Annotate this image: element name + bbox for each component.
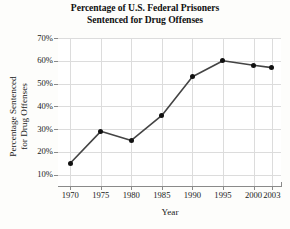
x-axis-line [58,186,282,187]
x-axis-title: Year [58,207,282,217]
chart-title-line-1: Percentage of U.S. Federal Prisoners [0,2,290,14]
x-tick-label: 2003 [263,190,280,200]
y-tick-mark [54,38,58,39]
y-tick-label: 70% [19,33,53,43]
y-tick-label: 10% [19,169,53,179]
data-point [129,138,134,143]
x-tick-label: 1970 [62,190,79,200]
x-tick-label: 1985 [153,190,170,200]
chart-title-line-2: Sentenced for Drug Offenses [0,14,290,26]
y-tick-mark [54,84,58,85]
y-tick-mark [54,61,58,62]
y-tick-mark [54,152,58,153]
x-tick-label: 1980 [123,190,140,200]
chart-figure: Percentage of U.S. Federal Prisoners Sen… [0,0,290,229]
y-axis-title-line-1: Percentage Sentenced [8,42,19,192]
data-point [68,161,73,166]
y-tick-label: 40% [19,101,53,111]
y-tick-label: 60% [19,55,53,65]
data-point [251,63,256,68]
data-line [58,38,281,186]
y-tick-label: 20% [19,146,53,156]
x-tick-label: 1995 [214,190,231,200]
x-tick-label: 1990 [184,190,201,200]
y-tick-label: 50% [19,78,53,88]
x-tick-label: 2000 [245,190,262,200]
x-tick-label: 1975 [92,190,109,200]
y-tick-mark [54,129,58,130]
chart-title: Percentage of U.S. Federal Prisoners Sen… [0,2,290,25]
y-tick-label: 30% [19,124,53,134]
y-tick-mark [54,106,58,107]
y-tick-mark [54,175,58,176]
x-axis-right-cap [281,182,282,187]
plot-area [58,38,281,186]
